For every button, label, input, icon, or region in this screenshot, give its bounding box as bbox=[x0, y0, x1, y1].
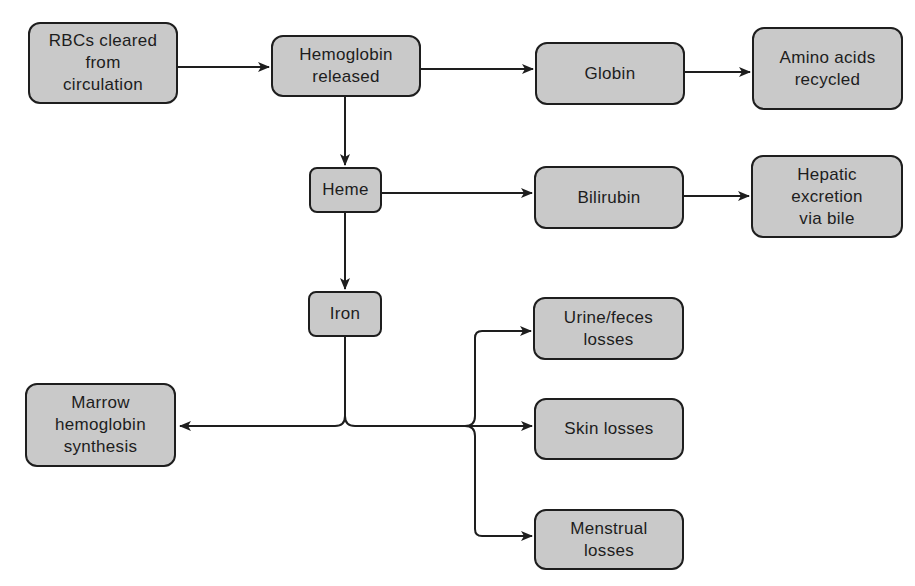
edge-brace-urine bbox=[465, 331, 531, 426]
node-rbcs-cleared: RBCs cleared from circulation bbox=[28, 22, 178, 104]
node-label: Bilirubin bbox=[577, 187, 640, 209]
node-menstrual-losses: Menstrual losses bbox=[534, 509, 684, 570]
node-label: Urine/feces losses bbox=[564, 307, 653, 351]
edge-brace-menstrual bbox=[465, 426, 532, 536]
node-label: Hepatic excretion via bile bbox=[791, 164, 863, 230]
node-urine-feces-losses: Urine/feces losses bbox=[533, 297, 684, 360]
node-label: Menstrual losses bbox=[570, 518, 647, 562]
edge-iron-brace bbox=[180, 336, 345, 426]
node-marrow-hemoglobin-synthesis: Marrow hemoglobin synthesis bbox=[25, 383, 176, 467]
node-label: Amino acids recycled bbox=[780, 47, 876, 91]
node-label: Iron bbox=[330, 303, 361, 325]
node-label: Heme bbox=[322, 179, 369, 201]
node-heme: Heme bbox=[309, 167, 382, 213]
node-globin: Globin bbox=[535, 42, 685, 105]
node-amino-acids-recycled: Amino acids recycled bbox=[752, 27, 903, 110]
node-label: Marrow hemoglobin synthesis bbox=[55, 392, 146, 458]
node-hepatic-excretion: Hepatic excretion via bile bbox=[751, 155, 903, 238]
node-label: Globin bbox=[585, 63, 636, 85]
flowchart-canvas: RBCs cleared from circulation Hemoglobin… bbox=[0, 0, 915, 586]
node-hemoglobin-released: Hemoglobin released bbox=[271, 35, 421, 97]
node-bilirubin: Bilirubin bbox=[534, 166, 684, 229]
edge-iron-brace-right bbox=[345, 416, 465, 426]
node-skin-losses: Skin losses bbox=[534, 398, 684, 460]
node-iron: Iron bbox=[308, 291, 382, 337]
node-label: Hemoglobin released bbox=[299, 44, 393, 88]
node-label: Skin losses bbox=[564, 418, 653, 440]
node-label: RBCs cleared from circulation bbox=[49, 30, 157, 96]
